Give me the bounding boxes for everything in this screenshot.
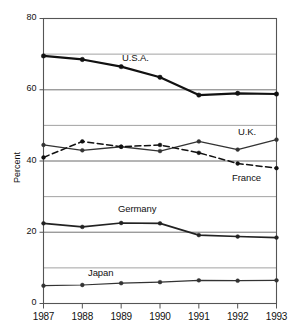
data-point <box>236 235 240 239</box>
data-point <box>80 140 84 144</box>
data-point <box>42 221 46 225</box>
data-point <box>119 145 123 149</box>
series-label-germany: Germany <box>118 203 156 214</box>
x-axis-ticks <box>44 304 277 309</box>
data-point <box>41 54 45 58</box>
y-tick-label: 60 <box>8 83 37 93</box>
data-point <box>158 221 162 225</box>
data-point <box>158 280 162 284</box>
data-point <box>197 278 201 282</box>
data-point <box>42 284 46 288</box>
data-point <box>158 143 162 147</box>
series-label-japan: Japan <box>88 267 113 278</box>
series-lines <box>44 56 277 286</box>
data-point <box>80 148 84 152</box>
plot-area <box>0 0 302 332</box>
series-markers <box>41 54 278 288</box>
data-point <box>275 138 279 142</box>
data-point <box>275 236 279 240</box>
data-point <box>80 283 84 287</box>
data-point <box>274 92 278 96</box>
data-point <box>236 148 240 152</box>
data-point <box>236 162 240 166</box>
data-point <box>158 75 162 79</box>
x-tick-label: 1989 <box>101 311 141 322</box>
y-tick-label: 80 <box>8 12 37 22</box>
data-point <box>197 140 201 144</box>
data-point <box>275 278 279 282</box>
data-point <box>119 64 123 68</box>
data-point <box>42 156 46 160</box>
x-tick-label: 1992 <box>218 311 258 322</box>
x-tick-label: 1991 <box>179 311 219 322</box>
line-chart: Percent 020406080 1987198819891990199119… <box>0 0 302 332</box>
data-point <box>119 221 123 225</box>
x-tick-label: 1988 <box>62 311 102 322</box>
y-tick-label: 40 <box>8 155 37 165</box>
data-point <box>119 281 123 285</box>
data-point <box>197 233 201 237</box>
x-tick-label: 1990 <box>140 311 180 322</box>
x-tick-label: 1993 <box>257 311 297 322</box>
data-point <box>80 57 84 61</box>
data-point <box>236 279 240 283</box>
data-point <box>197 151 201 155</box>
data-point <box>235 91 239 95</box>
series-label-france: France <box>232 172 261 183</box>
data-point <box>158 149 162 153</box>
y-tick-label: 20 <box>8 226 37 236</box>
data-point <box>80 225 84 229</box>
series-label-uk: U.K. <box>238 126 256 137</box>
series-label-usa: U.S.A. <box>122 52 149 63</box>
data-point <box>275 166 279 170</box>
data-point <box>42 143 46 147</box>
x-tick-label: 1987 <box>24 311 64 322</box>
y-axis-ticks <box>40 19 44 304</box>
y-tick-label: 0 <box>8 297 37 307</box>
data-point <box>197 93 201 97</box>
